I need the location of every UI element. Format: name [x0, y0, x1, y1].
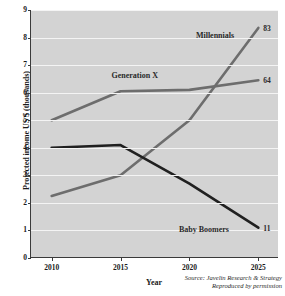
x-axis-tick — [121, 257, 122, 261]
gridline — [31, 120, 278, 121]
gridline — [31, 148, 278, 149]
y-axis-tick-label: 9 — [23, 6, 27, 14]
gridline — [31, 203, 278, 204]
series-end-value-label: 83 — [263, 23, 271, 32]
y-axis-tick — [28, 38, 31, 39]
x-axis-tick-label: 2020 — [182, 263, 197, 272]
series-label: Generation X — [112, 71, 158, 80]
y-axis-tick-label: 8 — [23, 34, 27, 42]
y-axis-tick — [28, 93, 31, 94]
x-axis-tick — [258, 257, 259, 261]
y-axis-tick-label: 6 — [23, 89, 27, 97]
series-label: Baby Boomers — [179, 224, 229, 233]
series-lines — [31, 10, 279, 258]
y-axis-tick — [28, 65, 31, 66]
y-axis-tick — [28, 148, 31, 149]
series-end-value-label: 11 — [263, 223, 270, 232]
y-axis-tick-label: 0 — [23, 254, 27, 262]
y-axis-tick-label: 1 — [23, 227, 27, 235]
y-axis-tick-label: 7 — [23, 61, 27, 69]
y-axis-tick — [28, 10, 31, 11]
y-axis-tick — [28, 203, 31, 204]
series-line — [52, 80, 259, 120]
y-axis-tick — [28, 120, 31, 121]
y-axis-tick-label: 3 — [23, 172, 27, 180]
chart-figure: Projected income US $ (thousands) 012345… — [0, 0, 285, 296]
gridline — [31, 10, 278, 11]
gridline — [31, 230, 278, 231]
source-credit-line-2: Reproduced by permission — [82, 282, 282, 291]
x-axis-tick — [189, 257, 190, 261]
gridline — [31, 175, 278, 176]
series-line — [52, 28, 259, 196]
plot-area: 01234567892010201520202025Millennials83G… — [30, 10, 278, 258]
y-axis-tick-label: 4 — [23, 144, 27, 152]
y-axis-tick — [28, 258, 31, 259]
series-label: Millennials — [196, 30, 234, 39]
x-axis-tick-label: 2025 — [251, 263, 266, 272]
x-axis-tick — [52, 257, 53, 261]
x-axis-tick-label: 2015 — [113, 263, 128, 272]
series-end-value-label: 64 — [263, 76, 271, 85]
y-axis-tick-label: 2 — [23, 199, 27, 207]
gridline — [31, 93, 278, 94]
y-axis-tick-label: 5 — [23, 116, 27, 124]
gridline — [31, 38, 278, 39]
x-axis-tick-label: 2010 — [44, 263, 59, 272]
gridline — [31, 65, 278, 66]
y-axis-tick — [28, 230, 31, 231]
y-axis-tick — [28, 175, 31, 176]
